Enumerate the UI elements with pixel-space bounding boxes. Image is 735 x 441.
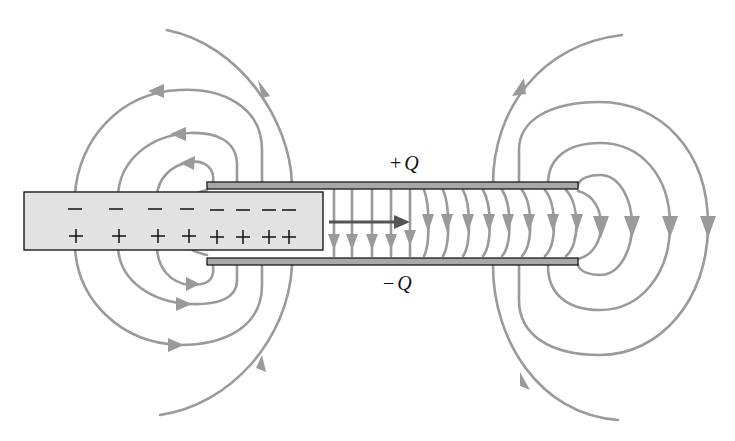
capacitor-dielectric-diagram: +Q −Q: [0, 0, 735, 441]
left-fringe-field-top: [75, 30, 292, 200]
top-plate-label: +Q: [390, 152, 419, 174]
right-fringe-field: [493, 35, 716, 420]
dielectric-slab[interactable]: [24, 192, 323, 250]
bottom-plate: [207, 258, 578, 265]
top-plate: [207, 182, 578, 189]
force-arrow-icon: [329, 215, 410, 229]
left-fringe-field-bottom: [75, 246, 292, 415]
bottom-plate-label: −Q: [383, 272, 412, 294]
